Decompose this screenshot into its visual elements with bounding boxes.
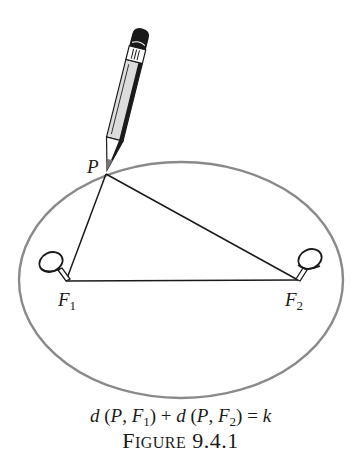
figure-caption: FIGURE 9.4.1 (0, 428, 361, 454)
pin-icon-f1 (36, 248, 70, 281)
point-p-label: P (87, 157, 99, 176)
focus-f2-label: F2 (285, 290, 303, 312)
focus-f1-label: F1 (58, 290, 76, 312)
ellipse-diagram (0, 0, 361, 458)
pencil-icon (99, 26, 151, 172)
string-triangle (66, 174, 298, 281)
pin-icon-f2 (295, 245, 325, 281)
distance-equation: d (P, F1) + d (P, F2) = k (0, 405, 361, 430)
segment-p-f1 (66, 174, 106, 281)
segment-f1-f2 (66, 280, 298, 281)
segment-p-f2 (106, 174, 298, 280)
